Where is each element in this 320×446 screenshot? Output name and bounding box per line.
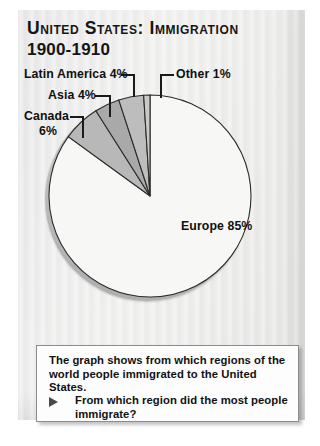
title-line-2: 1900-1910 — [27, 39, 292, 60]
slice-label-canada: Canada — [24, 109, 69, 123]
title-line-1: United States: Immigration — [27, 18, 292, 39]
caption-statement: The graph shows from which regions of th… — [49, 354, 291, 395]
triangle-right-icon — [49, 397, 58, 407]
caption-question: From which region did the most people im… — [75, 394, 291, 421]
leader-line-other-horizontal — [160, 74, 174, 76]
page-title: United States: Immigration 1900-1910 — [27, 18, 292, 60]
caption-box: The graph shows from which regions of th… — [36, 345, 299, 422]
slice-label-europe: Europe 85% — [181, 219, 252, 233]
slice-label-canada-percent: 6% — [39, 124, 57, 138]
pie-chart-svg — [48, 94, 252, 298]
leader-line-latin-america-vertical — [133, 74, 135, 97]
slice-label-latin-america: Latin America 4% — [24, 67, 128, 81]
leader-line-asia-vertical — [109, 95, 111, 117]
pie-chart — [48, 94, 252, 298]
leader-line-other-vertical — [160, 74, 162, 98]
slice-label-other: Other 1% — [176, 67, 231, 81]
slice-label-asia: Asia 4% — [48, 88, 96, 102]
caption-question-row: From which region did the most people im… — [49, 394, 291, 421]
pie-slices-group — [49, 95, 251, 297]
leader-line-canada-vertical — [82, 116, 84, 138]
